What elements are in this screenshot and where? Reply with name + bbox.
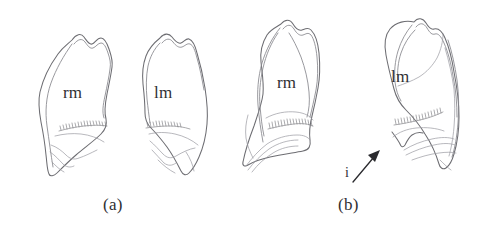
- specimen-b-lm: [385, 19, 459, 170]
- b-rm-blade-curve: [266, 112, 313, 120]
- b-rm-left-wing-tip: [246, 115, 253, 158]
- panel-caption-b: (b): [338, 196, 359, 213]
- specimen-a-rm: [39, 35, 112, 176]
- b-rm-dentition-line: [268, 124, 313, 129]
- b-rm-left-wing-inner: [260, 33, 278, 136]
- a-lm-dentition-line: [146, 126, 190, 129]
- b-rm-inner-contour-1: [283, 25, 318, 117]
- specimen-label-b-rm: rm: [277, 74, 296, 91]
- figure-root: rm lm (a) rm lm i (b): [0, 0, 482, 241]
- a-rm-outer-contour: [39, 35, 112, 176]
- specimen-b-rm: [243, 20, 320, 172]
- a-rm-blade-line-1: [55, 134, 104, 142]
- panel-caption-a: (a): [103, 196, 123, 213]
- a-lm-outer-contour: [143, 34, 208, 175]
- callout-label-incisure: i: [345, 166, 349, 180]
- a-lm-blade-line-4: [158, 160, 175, 173]
- specimen-label-a-rm: rm: [63, 84, 82, 101]
- b-lm-right-wing-detail: [445, 48, 455, 156]
- specimen-label-b-lm: lm: [391, 68, 409, 85]
- callout-arrow-head: [368, 150, 380, 162]
- b-lm-outer-contour: [385, 19, 459, 169]
- b-rm-tail-line-3: [252, 146, 298, 172]
- a-rm-inner-left-ridge: [46, 44, 72, 167]
- b-rm-dentition-teeth: [269, 119, 312, 128]
- incisure-callout-arrow: [353, 150, 380, 182]
- specimen-label-a-lm: lm: [154, 84, 172, 101]
- b-rm-outer-contour: [243, 20, 320, 166]
- callout-arrow-shaft: [353, 157, 374, 182]
- figure-linework: [0, 0, 482, 241]
- specimen-a-lm: [143, 34, 208, 175]
